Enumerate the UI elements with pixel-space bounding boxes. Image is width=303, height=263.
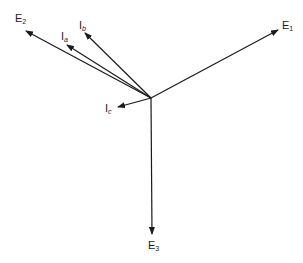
label-ic: Ic xyxy=(105,103,112,115)
vector-group xyxy=(26,30,278,234)
vector-e2 xyxy=(26,31,151,98)
vector-ib xyxy=(85,33,151,98)
phasor-diagram xyxy=(0,0,303,263)
vector-e3 xyxy=(151,98,152,234)
vector-ic xyxy=(118,98,151,107)
label-ib: Ib xyxy=(79,20,86,32)
label-e2: E2 xyxy=(15,13,26,25)
label-e1: E1 xyxy=(282,20,293,32)
label-ia: Ia xyxy=(61,31,68,43)
label-e3: E3 xyxy=(148,240,159,252)
vector-ia xyxy=(67,45,151,98)
vector-e1 xyxy=(151,30,278,98)
